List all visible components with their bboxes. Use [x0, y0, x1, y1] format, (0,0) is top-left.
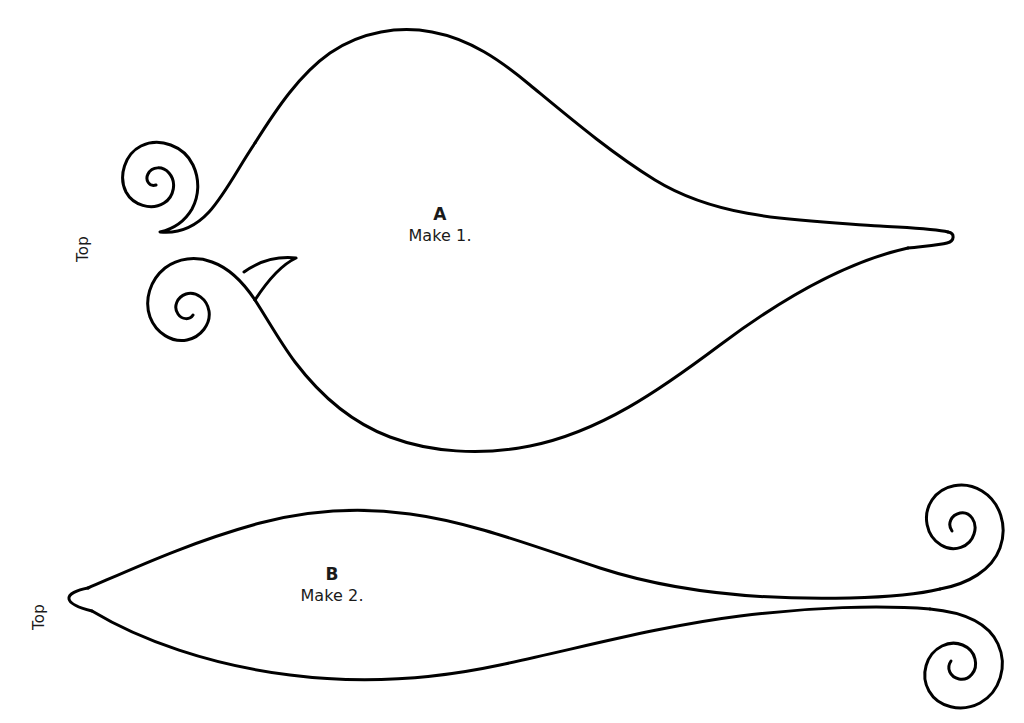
piece-a-lower-spiral [148, 259, 255, 341]
piece-a-bottom-edge [255, 248, 908, 452]
pattern-drawing [0, 0, 1024, 723]
piece-b-left-point [69, 588, 92, 611]
pattern-piece-b [69, 485, 1003, 708]
piece-b-upper-spiral [926, 485, 1003, 589]
piece-b-top-edge [88, 510, 940, 598]
pattern-piece-a [123, 30, 953, 452]
piece-a-right-point [908, 232, 953, 248]
piece-b-lower-spiral [925, 609, 1003, 708]
piece-a-upper-spiral [123, 142, 255, 232]
piece-a-top-edge [255, 30, 948, 232]
piece-b-bottom-edge [92, 607, 930, 680]
pattern-sheet: A Make 1. B Make 2. Top Top [0, 0, 1024, 723]
